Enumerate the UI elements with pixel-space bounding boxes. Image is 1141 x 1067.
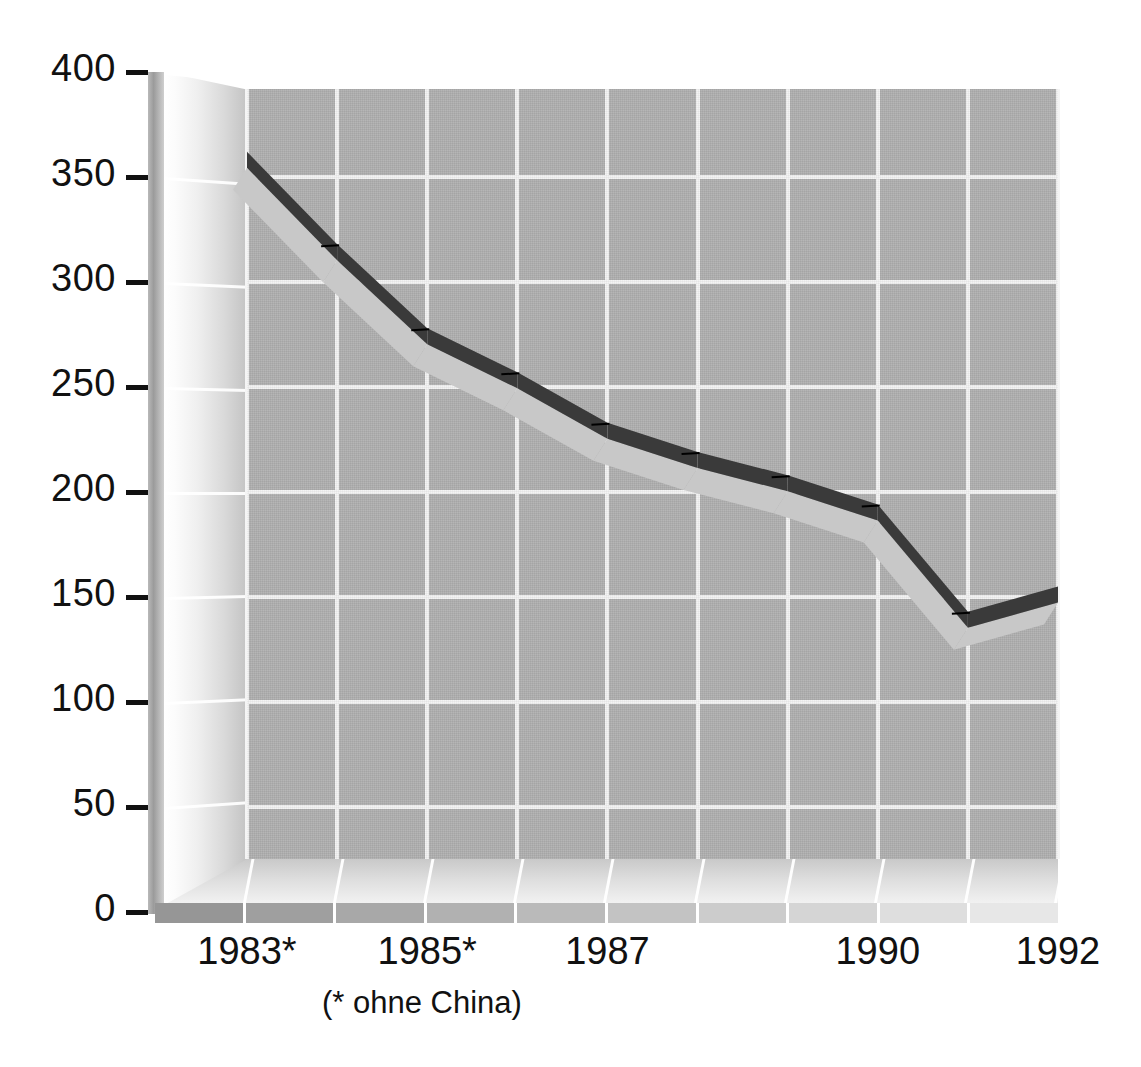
y-tick-mark [126,175,148,180]
gridline-horizontal [247,385,1058,389]
gridline-floor [963,859,975,905]
y-tick-label: 400 [6,47,116,90]
y-tick-label: 0 [6,887,116,930]
y-tick-mark [126,805,148,810]
gridline-left-wall [164,177,248,186]
floor-gridlines [164,859,1058,905]
y-tick-label: 50 [6,782,116,825]
gridline-floor [333,859,345,905]
category-band [155,903,1058,923]
gridline-left-wall [164,595,248,600]
x-tick-label: 1992 [968,930,1141,973]
y-tick-label: 200 [6,467,116,510]
gridline-horizontal [247,595,1058,599]
gridline-floor [603,859,615,905]
category-band-segment [517,903,608,923]
y-tick-label: 150 [6,572,116,615]
footnote-text: (* ohne China) [322,985,522,1021]
left-wall-gridlines [164,72,248,914]
y-tick-mark [126,385,148,390]
category-band-segment [608,903,699,923]
gridline-left-wall [164,282,248,289]
y-tick-label: 350 [6,152,116,195]
gridline-floor [783,859,795,905]
gridline-vertical [696,89,700,859]
y-tick-mark [126,280,148,285]
gridline-left-wall [164,801,248,810]
y-tick-mark [126,595,148,600]
gridline-horizontal [247,700,1058,704]
y-tick-mark [126,70,148,75]
y-axis-bar [148,72,164,914]
gridline-vertical [876,89,880,859]
gridline-vertical [786,89,790,859]
gridline-horizontal [247,280,1058,284]
x-tick-label: 1985* [337,930,517,973]
y-tick-mark [126,490,148,495]
gridline-vertical [966,89,970,859]
gridline-vertical [245,89,249,859]
category-band-segment [336,903,427,923]
gridline-left-wall [164,72,248,83]
gridline-horizontal [247,175,1058,179]
gridline-floor [513,859,525,905]
gridline-vertical [605,89,609,859]
gridline-horizontal [247,805,1058,809]
y-tick-label: 250 [6,362,116,405]
gridline-left-wall [164,492,248,495]
gridline-vertical [425,89,429,859]
gridline-horizontal [247,490,1058,494]
gridline-left-wall [164,698,248,705]
gridline-left-wall [164,387,248,392]
gridline-floor [423,859,435,905]
category-band-segment [427,903,518,923]
gridline-vertical [1056,89,1060,859]
category-band-segment [155,903,246,923]
y-tick-mark [126,910,148,915]
gridline-vertical [515,89,519,859]
category-band-segment [789,903,880,923]
category-band-segment [699,903,790,923]
y-tick-label: 300 [6,257,116,300]
plot-area [247,89,1058,859]
chart-figure: 400350300250200150100500 1983*1985*19871… [0,0,1141,1067]
x-tick-label: 1990 [788,930,968,973]
gridline-floor [873,859,885,905]
y-tick-label: 100 [6,677,116,720]
y-tick-mark [126,700,148,705]
gridline-floor [693,859,705,905]
category-band-segment [970,903,1058,923]
gridline-floor [1054,859,1058,905]
category-band-segment [246,903,337,923]
gridline-floor [243,859,255,905]
category-band-segment [880,903,971,923]
gridline-vertical [335,89,339,859]
x-tick-label: 1983* [157,930,337,973]
x-tick-label: 1987 [517,930,697,973]
